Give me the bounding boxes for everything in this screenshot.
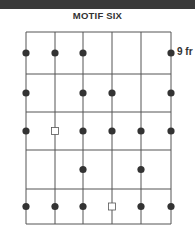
note-dot xyxy=(167,49,174,56)
note-dot xyxy=(137,166,144,173)
note-dot xyxy=(51,203,58,210)
start-fret-label: 9 fr xyxy=(177,46,193,57)
note-dot xyxy=(137,127,144,134)
note-dot xyxy=(79,89,86,96)
note-dot xyxy=(167,203,174,210)
note-dot xyxy=(108,89,115,96)
note-dot xyxy=(22,203,29,210)
note-dot xyxy=(79,49,86,56)
root-note-square xyxy=(109,203,116,210)
note-dot xyxy=(79,127,86,134)
root-note-square xyxy=(52,128,59,135)
note-dot xyxy=(167,127,174,134)
note-dot xyxy=(22,89,29,96)
note-dot xyxy=(22,127,29,134)
fretboard-grid xyxy=(26,32,171,224)
note-dot xyxy=(22,49,29,56)
note-dot xyxy=(167,89,174,96)
note-dot xyxy=(79,166,86,173)
fretboard-diagram xyxy=(0,0,195,239)
note-dot xyxy=(79,203,86,210)
note-dot xyxy=(108,127,115,134)
note-dot xyxy=(137,203,144,210)
note-dot xyxy=(51,49,58,56)
